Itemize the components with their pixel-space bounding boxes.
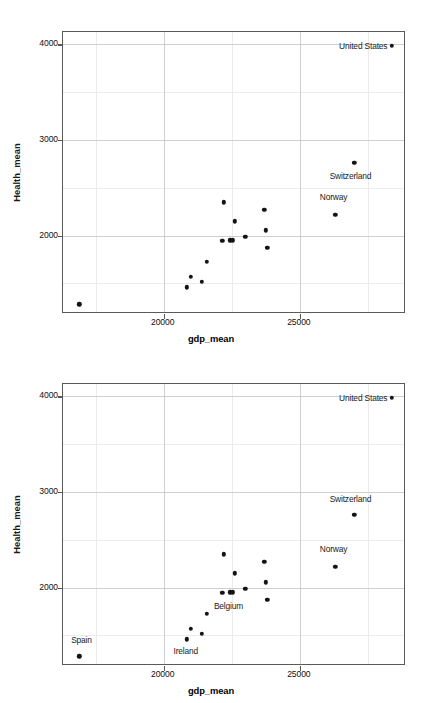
data-point	[188, 275, 192, 279]
gridline-minor-horizontal	[63, 188, 404, 189]
data-point	[220, 239, 224, 243]
y-axis-tick-mark	[58, 396, 63, 397]
gridline-major-horizontal	[63, 492, 404, 493]
y-axis-tick-labels-top: 200030004000	[22, 31, 58, 313]
data-point	[77, 302, 81, 306]
data-point-label: Norway	[320, 192, 348, 202]
gridline-minor-horizontal	[63, 540, 404, 541]
gridline-minor-horizontal	[63, 635, 404, 636]
data-point	[233, 571, 237, 575]
scatter-chart-top: Health_mean 200030004000 NorwaySwitzerla…	[0, 0, 422, 351]
y-axis-title-label: Health_mean	[11, 495, 22, 553]
gridline-major-vertical	[164, 384, 165, 664]
x-axis-tick-labels-top: 2000025000	[62, 313, 405, 329]
gridline-minor-vertical	[368, 384, 369, 664]
data-point-label: United States	[339, 393, 387, 403]
data-point	[390, 44, 394, 48]
gridline-minor-horizontal	[63, 444, 404, 445]
gridline-minor-vertical	[96, 384, 97, 664]
data-point-label: Switzerland	[330, 494, 372, 504]
plot-panel-top: NorwaySwitzerlandUnited States	[62, 31, 405, 313]
data-point	[352, 513, 356, 517]
data-point	[265, 246, 269, 250]
gridline-major-vertical	[300, 32, 301, 312]
data-point	[221, 200, 225, 204]
data-point	[352, 161, 356, 165]
data-point	[263, 580, 267, 584]
y-axis-tick-label: 3000	[39, 486, 58, 496]
data-point-label: Belgium	[214, 601, 243, 611]
gridline-major-horizontal	[63, 140, 404, 141]
gridline-major-vertical	[300, 384, 301, 664]
gridline-minor-horizontal	[63, 283, 404, 284]
y-axis-tick-label: 2000	[39, 230, 58, 240]
gridline-minor-vertical	[232, 32, 233, 312]
data-point	[184, 637, 188, 641]
y-axis-title-label: Health_mean	[11, 143, 22, 201]
data-point	[230, 590, 234, 594]
y-axis-tick-labels-bottom: 200030004000	[22, 383, 58, 665]
gridline-major-horizontal	[63, 588, 404, 589]
data-point	[188, 627, 192, 631]
data-point	[220, 591, 224, 595]
data-point	[230, 238, 234, 242]
data-point	[390, 396, 394, 400]
data-point	[205, 260, 209, 264]
gridline-minor-vertical	[96, 32, 97, 312]
y-axis-tick-label: 3000	[39, 134, 58, 144]
data-point	[243, 587, 247, 591]
data-point-label: Norway	[320, 544, 348, 554]
data-point	[184, 285, 188, 289]
x-axis-title-bottom: gdp_mean	[0, 685, 422, 696]
data-point-label: Switzerland	[330, 171, 372, 181]
data-point	[262, 208, 266, 212]
data-point	[263, 228, 267, 232]
gridline-minor-horizontal	[63, 92, 404, 93]
data-point-label: Spain	[71, 635, 92, 645]
x-axis-tick-label: 20000	[151, 317, 174, 327]
plot-panel-bottom: SpainIrelandBelgiumNorwaySwitzerlandUnit…	[62, 383, 405, 665]
y-axis-tick-label: 4000	[39, 38, 58, 48]
data-point	[243, 235, 247, 239]
y-axis-tick-mark	[58, 492, 63, 493]
y-axis-tick-mark	[58, 236, 63, 237]
x-axis-tick-label: 20000	[151, 669, 174, 679]
x-axis-tick-labels-bottom: 2000025000	[62, 665, 405, 681]
data-point	[221, 552, 225, 556]
y-axis-tick-label: 4000	[39, 390, 58, 400]
y-axis-tick-mark	[58, 140, 63, 141]
gridline-minor-vertical	[232, 384, 233, 664]
data-point	[265, 598, 269, 602]
y-axis-tick-label: 2000	[39, 582, 58, 592]
scatter-chart-bottom: Health_mean 200030004000 SpainIrelandBel…	[0, 352, 422, 703]
data-point-label: United States	[339, 41, 387, 51]
data-point	[205, 612, 209, 616]
data-point-label: Ireland	[173, 646, 198, 656]
x-axis-tick-label: 25000	[287, 669, 310, 679]
y-axis-tick-mark	[58, 588, 63, 589]
data-point	[333, 213, 337, 217]
data-point	[333, 565, 337, 569]
y-axis-tick-mark	[58, 44, 63, 45]
gridline-major-vertical	[164, 32, 165, 312]
data-point	[262, 560, 266, 564]
data-point	[233, 219, 237, 223]
x-axis-title-top: gdp_mean	[0, 333, 422, 344]
x-axis-tick-label: 25000	[287, 317, 310, 327]
gridline-major-horizontal	[63, 236, 404, 237]
data-point	[77, 654, 81, 658]
